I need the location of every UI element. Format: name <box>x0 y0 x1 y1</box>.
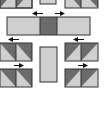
left-hst-pair-row2 <box>0 69 32 87</box>
top-left-hst-pair <box>0 0 32 8</box>
right-hst-pair-row2 <box>65 69 98 87</box>
arrow-top-left <box>32 11 43 16</box>
arrow-low-left <box>14 63 24 68</box>
arrow-low-right <box>78 63 88 68</box>
sashing-strip <box>7 17 90 35</box>
right-hst-pair-row1 <box>65 43 98 61</box>
left-hst-pair-row1 <box>0 43 32 61</box>
top-right-hst-pair <box>65 0 98 8</box>
top-center-rect <box>40 0 56 4</box>
arrow-top-right <box>55 11 65 16</box>
arrow-mid-left <box>8 37 19 42</box>
arrow-mid-right <box>73 37 84 42</box>
center-rect <box>40 47 57 82</box>
quilt-assembly-diagram <box>0 0 105 114</box>
